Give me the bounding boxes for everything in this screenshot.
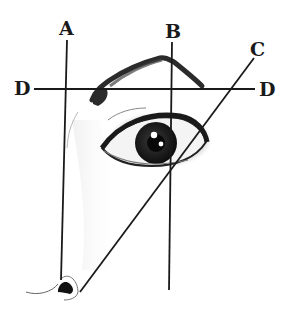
nose-sketch [26, 276, 78, 300]
label-a: A [59, 19, 74, 38]
label-c: C [250, 40, 265, 59]
label-d-right: D [259, 80, 275, 99]
eyebrow-sketch [92, 58, 202, 106]
line-a [61, 40, 67, 280]
eyebrow-diagram: A B C D D [0, 0, 292, 314]
label-b: B [165, 22, 181, 41]
label-d-left: D [14, 79, 30, 98]
